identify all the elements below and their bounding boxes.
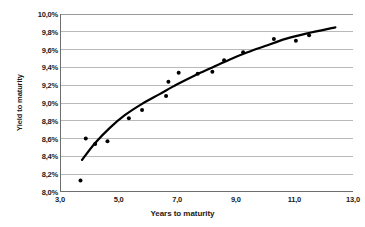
scatter-point — [127, 116, 131, 120]
scatter-point — [105, 139, 109, 143]
scatter-markers — [79, 33, 312, 182]
x-tick-label: 11,0 — [274, 195, 314, 204]
scatter-point — [140, 108, 144, 112]
x-tick-label: 3,0 — [40, 195, 80, 204]
scatter-point — [241, 50, 245, 54]
y-tick-label: 8,2% — [22, 170, 58, 179]
plot-area — [60, 14, 353, 192]
scatter-point — [84, 137, 88, 141]
scatter-point — [164, 94, 168, 98]
y-tick-label: 9,2% — [22, 81, 58, 90]
y-tick-label: 9,6% — [22, 45, 58, 54]
x-axis-tick-labels: 3,05,07,09,011,013,0 — [0, 195, 365, 209]
trendline-path — [82, 27, 335, 160]
y-axis-tick-labels: 8,0%8,2%8,4%8,6%8,8%9,0%9,2%9,4%9,6%9,8%… — [20, 0, 58, 227]
y-tick-label: 9,8% — [22, 27, 58, 36]
y-tick-label: 8,4% — [22, 152, 58, 161]
scatter-point — [294, 39, 298, 43]
scatter-point — [196, 72, 200, 76]
x-tick-label: 5,0 — [99, 195, 139, 204]
scatter-point — [166, 80, 170, 84]
x-tick-label: 7,0 — [157, 195, 197, 204]
x-axis-title: Years to maturity — [0, 209, 365, 218]
scatter-point — [93, 142, 97, 146]
scatter-point — [272, 37, 276, 41]
y-tick-label: 9,0% — [22, 99, 58, 108]
scatter-point — [307, 33, 311, 37]
scatter-point — [210, 70, 214, 74]
y-tick-label: 10,0% — [22, 10, 58, 19]
x-tick-label: 13,0 — [333, 195, 365, 204]
y-tick-label: 9,4% — [22, 63, 58, 72]
data-layer — [60, 14, 353, 192]
scatter-point — [177, 71, 181, 75]
yield-curve-chart: Yield to maturity 8,0%8,2%8,4%8,6%8,8%9,… — [0, 0, 365, 227]
y-tick-label: 8,6% — [22, 134, 58, 143]
y-tick-label: 8,8% — [22, 116, 58, 125]
x-tick-label: 9,0 — [216, 195, 256, 204]
scatter-point — [79, 178, 83, 182]
scatter-point — [222, 58, 226, 62]
